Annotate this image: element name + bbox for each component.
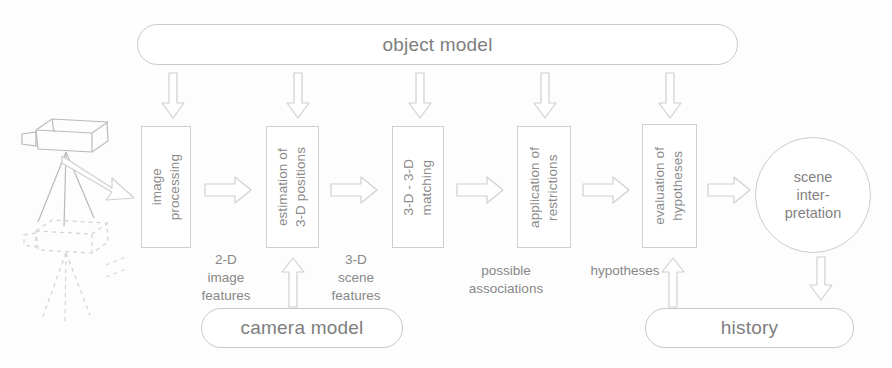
arrow-image-processing-to-estimation-3d [205,176,253,204]
arrow-camera-model-to-estimation-3d [278,255,308,307]
object-model-label: object model [382,34,492,56]
flow-label-possible-associations: possible associations [441,262,571,298]
process-box-label: image processing [148,154,184,220]
camera-model-box[interactable]: camera model [201,308,403,348]
arrow-matching-3d-to-application-restrictions [457,176,505,204]
arrow-scene-interpretation-to-history [806,257,836,305]
diagram-canvas: object model image processing estimation… [0,0,892,368]
flow-label-2d-image-features: 2-D image features [188,251,264,304]
object-model-box[interactable]: object model [137,24,738,65]
scene-interpretation-label: scene inter- pretation [785,168,841,222]
process-box-application-restrictions[interactable]: application of restrictions [517,126,571,248]
arrow-history-to-evaluation-hypotheses [658,255,688,307]
arrow-object-model-to-image-processing [158,73,188,121]
process-box-image-processing[interactable]: image processing [141,126,191,248]
camera-model-label: camera model [241,317,364,339]
history-box[interactable]: history [645,308,854,348]
arrow-application-restrictions-to-evaluation-hypotheses [583,176,631,204]
arrow-object-model-to-estimation-3d [283,73,313,121]
scene-interpretation-circle[interactable]: scene inter- pretation [755,137,871,253]
arrow-evaluation-hypotheses-to-scene-interpretation [708,176,752,204]
arrow-camera-to-image-processing [60,152,142,214]
arrow-object-model-to-matching-3d [405,73,435,121]
history-label: history [721,317,778,339]
process-box-label: evaluation of hypotheses [651,147,687,225]
process-box-label: estimation of 3-D positions [274,147,310,227]
arrow-object-model-to-evaluation-hypotheses [655,73,685,121]
process-box-estimation-3d[interactable]: estimation of 3-D positions [266,126,319,248]
flow-label-3d-scene-features: 3-D scene features [318,251,394,304]
arrow-object-model-to-application-restrictions [530,73,560,121]
process-box-matching-3d[interactable]: 3-D - 3-D matching [392,126,444,248]
process-box-label: application of restrictions [526,147,562,228]
camera-on-tripod-ghost-icon [22,215,132,335]
process-box-label: 3-D - 3-D matching [400,159,436,215]
process-box-evaluation-hypotheses[interactable]: evaluation of hypotheses [642,124,697,248]
arrow-estimation-3d-to-matching-3d [331,176,379,204]
